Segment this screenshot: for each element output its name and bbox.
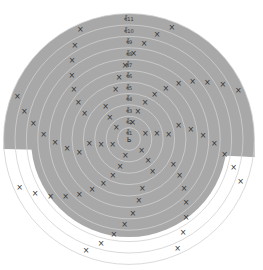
stitch-icon: × bbox=[32, 189, 39, 198]
stitch-icon: × bbox=[21, 107, 28, 116]
stitch-icon: × bbox=[142, 129, 149, 138]
stitch-icon: × bbox=[64, 144, 71, 153]
stitch-icon: × bbox=[130, 209, 137, 218]
row-label: ชั้3 bbox=[126, 106, 132, 114]
stitch-icon: × bbox=[134, 107, 141, 116]
stitch-icon: × bbox=[200, 131, 207, 140]
stitch-icon: × bbox=[98, 239, 105, 248]
row-label: ชั้7 bbox=[126, 60, 132, 68]
stitch-icon: × bbox=[68, 71, 75, 80]
row-label: ชั้2 bbox=[126, 117, 132, 125]
stitch-icon: × bbox=[211, 139, 218, 148]
stitch-icon: × bbox=[230, 163, 237, 172]
stitch-icon: × bbox=[151, 90, 158, 99]
stitch-icon: × bbox=[145, 156, 152, 165]
stitch-icon: × bbox=[77, 25, 84, 34]
stitch-icon: × bbox=[237, 177, 244, 186]
stitch-icon: × bbox=[86, 139, 93, 148]
stitch-icon: × bbox=[89, 185, 96, 194]
stitch-icon: × bbox=[52, 138, 59, 147]
stitch-icon: × bbox=[76, 148, 83, 157]
stitch-icon: × bbox=[76, 190, 83, 199]
stitch-icon: × bbox=[110, 230, 117, 239]
stitch-icon: × bbox=[165, 130, 172, 139]
stitch-icon: × bbox=[14, 92, 21, 101]
row-label: ชั้11 bbox=[124, 14, 133, 22]
stitch-icon: × bbox=[181, 184, 188, 193]
stitch-icon: × bbox=[69, 56, 76, 65]
stitch-icon: × bbox=[204, 78, 211, 87]
stitch-icon: × bbox=[170, 160, 177, 169]
stitch-icon: × bbox=[30, 119, 37, 128]
stitch-icon: × bbox=[154, 30, 161, 39]
stitch-icon: × bbox=[219, 80, 226, 89]
row-label: ชั้9 bbox=[126, 37, 132, 45]
stitch-icon: × bbox=[117, 162, 124, 171]
stitch-icon: × bbox=[175, 79, 182, 88]
stitch-icon: × bbox=[135, 196, 142, 205]
row-label: ชั้10 bbox=[124, 26, 133, 34]
stitch-icon: × bbox=[75, 98, 82, 107]
row-label: ชั้8 bbox=[126, 49, 132, 57]
stitch-icon: × bbox=[62, 192, 69, 201]
stitch-icon: × bbox=[169, 23, 176, 32]
stitch-icon: × bbox=[154, 129, 161, 138]
stitch-icon: × bbox=[107, 113, 114, 122]
stitch-icon: × bbox=[113, 123, 120, 132]
stitch-icon: × bbox=[83, 246, 90, 255]
stitch-icon: × bbox=[102, 102, 109, 111]
stitch-icon: × bbox=[175, 121, 182, 130]
stitch-icon: × bbox=[141, 39, 148, 48]
stitch-icon: × bbox=[176, 171, 183, 180]
stitch-icon: × bbox=[183, 213, 190, 222]
crochet-chart: ××××××××××××××××××××××××××××××××××××××××… bbox=[0, 0, 263, 270]
stitch-icon: × bbox=[189, 77, 196, 86]
center-symbol: ь bbox=[127, 135, 132, 144]
stitch-icon: × bbox=[139, 184, 146, 193]
stitch-icon: × bbox=[112, 85, 119, 94]
stitch-icon: × bbox=[174, 244, 181, 253]
stitch-icon: × bbox=[121, 220, 128, 229]
stitch-icon: × bbox=[16, 183, 23, 192]
stitch-icon: × bbox=[81, 109, 88, 118]
stitch-icon: × bbox=[71, 85, 78, 94]
stitch-icon: × bbox=[188, 125, 195, 134]
stitch-icon: × bbox=[149, 167, 156, 176]
row-label: ชั้6 bbox=[126, 71, 132, 79]
stitch-icon: × bbox=[98, 140, 105, 149]
stitch-icon: × bbox=[100, 179, 107, 188]
stitch-icon: × bbox=[183, 198, 190, 207]
stitch-icon: × bbox=[109, 171, 116, 180]
stitch-icon: × bbox=[221, 150, 228, 159]
row-label: ชั้5 bbox=[126, 83, 132, 91]
stitch-icon: × bbox=[109, 140, 116, 149]
stitch-icon: × bbox=[116, 73, 123, 82]
stitch-icon: × bbox=[142, 98, 149, 107]
stitch-icon: × bbox=[71, 41, 78, 50]
stitch-icon: × bbox=[163, 84, 170, 93]
stitch-icon: × bbox=[235, 86, 242, 95]
stitch-icon: × bbox=[180, 228, 187, 237]
stitch-icon: × bbox=[122, 151, 129, 160]
stitch-icon: × bbox=[40, 130, 47, 139]
stitch-icon: × bbox=[138, 146, 145, 155]
row-label: ชั้4 bbox=[126, 94, 132, 102]
stitch-icon: × bbox=[47, 192, 54, 201]
